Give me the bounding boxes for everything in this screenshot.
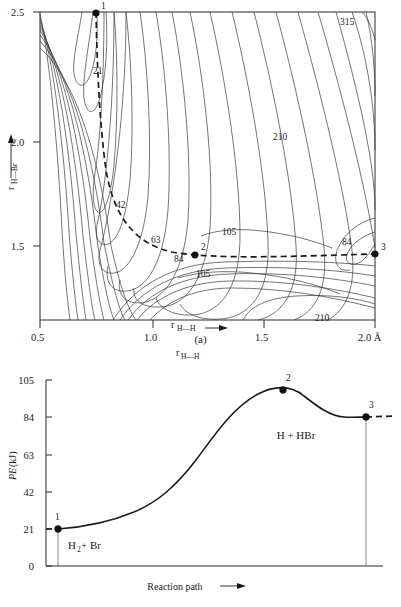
panel-b-svg: 0 21 42 63 84 105 PE (kJ) — [0, 350, 401, 607]
contour-label-315: 315 — [340, 17, 355, 27]
panel-b-ytick-42: 42 — [24, 487, 35, 498]
contour-group-left-valley — [40, 14, 136, 320]
panel-b-y-ticks: 0 21 42 63 84 105 — [18, 375, 52, 572]
panel-a-xlabel-sub-overlay: H—H — [177, 324, 196, 333]
panel-a-point-label-2: 2 — [201, 242, 206, 252]
panel-b-ytick-63: 63 — [24, 450, 35, 461]
panel-b-xlabel-arrow-head — [237, 583, 246, 589]
panel-b-product-label: H + HBr — [277, 429, 316, 441]
figure-potential-energy-surface: 2.5 2.0 1.5 r H—Br 0.5 — [0, 0, 401, 607]
panel-b-point-label-2: 2 — [286, 373, 291, 383]
contour-label-42: 42 — [116, 200, 126, 210]
panel-b-xlabel: Reaction path — [147, 581, 202, 592]
panel-b-ytick-0: 0 — [29, 561, 34, 572]
panel-b-ytick-84: 84 — [24, 412, 35, 423]
panel-a-ytick-2: 1.5 — [11, 241, 24, 252]
panel-b-ytick-21: 21 — [24, 524, 35, 535]
panel-b-exit-dash — [366, 416, 396, 417]
contour-label-84-left: 84 — [174, 254, 184, 264]
panel-a-contour-map: 2.5 2.0 1.5 r H—Br 0.5 — [0, 0, 401, 350]
panel-b-ytick-105: 105 — [18, 375, 34, 386]
panel-b-y-axis-title: PE (kJ) — [7, 451, 19, 481]
panel-b-ylabel-italic: PE — [7, 468, 18, 481]
panel-a-ylabel-main: r — [5, 186, 16, 190]
panel-b-point-3: 3 — [363, 400, 374, 420]
panel-a-svg: 2.5 2.0 1.5 r H—Br 0.5 — [0, 0, 401, 350]
panel-a-point-label-3: 3 — [381, 242, 386, 252]
panel-a-reaction-path — [96, 12, 375, 257]
panel-a-point-3: 3 — [372, 242, 386, 257]
panel-b-point-label-1: 1 — [55, 512, 60, 522]
panel-a-y-axis: 2.5 2.0 1.5 — [11, 7, 40, 252]
panel-a-marker-1 — [93, 10, 100, 17]
panel-b-reaction-profile: 0 21 42 63 84 105 PE (kJ) — [0, 350, 401, 607]
panel-a-point-label-1: 1 — [101, 1, 106, 11]
contour-label-105-lower: 105 — [196, 269, 211, 279]
panel-b-marker-1 — [55, 526, 62, 533]
panel-b-marker-2 — [280, 387, 287, 394]
panel-a-ytick-0: 2.5 — [11, 7, 24, 18]
contour-label-63: 63 — [151, 235, 161, 245]
panel-a-xlabel-arrow-head — [219, 325, 228, 331]
panel-b-reactant-tail: + Br — [81, 539, 101, 551]
contour-label-84-right: 84 — [342, 237, 352, 247]
panel-a-caption: (a) — [0, 333, 401, 345]
contour-label-210-upper: 210 — [273, 132, 288, 142]
panel-b-point-2: 2 — [280, 373, 291, 393]
panel-b-point-label-3: 3 — [369, 400, 374, 410]
panel-b-reactant-label: H 2 + Br — [68, 539, 101, 554]
contour-group-mid — [93, 12, 149, 273]
panel-b-pe-curve — [58, 388, 366, 529]
panel-b-marker-3 — [363, 414, 370, 421]
panel-a-marker-3 — [372, 251, 379, 258]
contour-label-105-upper: 105 — [222, 227, 237, 237]
panel-b-reactant-main: H — [68, 539, 76, 551]
panel-b-ylabel-units: (kJ) — [7, 451, 19, 467]
contour-group-saddle-region — [107, 12, 211, 307]
panel-a-xlabel-main-overlay: r — [171, 319, 175, 330]
panel-a-marker-2 — [192, 252, 199, 259]
panel-b-point-1: 1 — [55, 512, 62, 532]
panel-b-x-axis-title: Reaction path — [147, 581, 246, 592]
